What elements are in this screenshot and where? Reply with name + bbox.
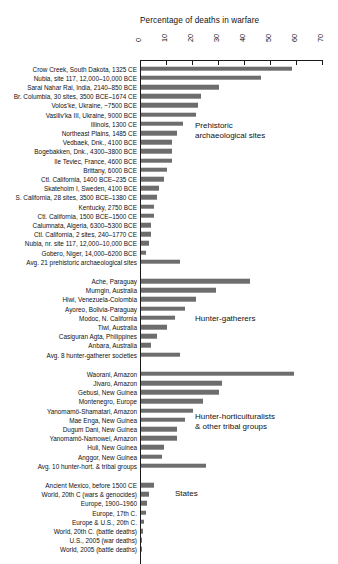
- bar-row-label: Vedbaek, Dnk., 4100 BCE: [63, 139, 137, 146]
- bar-row: Crow Creek, South Dakota, 1325 CE: [140, 64, 322, 73]
- bar-row: Sarai Nahar Rai, India, 2140–850 BCE: [140, 82, 322, 91]
- bar-row-label: Avg. 21 prehistoric archaeological sites: [26, 258, 137, 265]
- bar: [141, 121, 183, 126]
- bar: [141, 66, 292, 71]
- bar-row-label: Tiwi, Australia: [98, 323, 137, 330]
- bar-row-label: S. California, 28 sites, 3500 BCE–1380 C…: [16, 194, 138, 201]
- group-annotation: Hunter-gatherers: [195, 314, 255, 325]
- bar-row-label: Montenegro, Europe: [79, 398, 137, 405]
- bar: [141, 399, 203, 404]
- bar-row: Vasiliv'ka III, Ukraine, 9000 BCE: [140, 110, 322, 119]
- chart-title: Percentage of deaths in warfare: [140, 16, 338, 25]
- bar-row-label: Br. Columbia, 30 sites, 3500 BCE–1674 CE: [14, 93, 137, 100]
- bar: [141, 529, 143, 534]
- bar-row-label: Hiwi, Venezuela-Colombia: [62, 296, 137, 303]
- x-tick-label: 70: [316, 34, 325, 42]
- bar-row-label: World, 2005 (battle deaths): [60, 546, 137, 553]
- bar: [141, 259, 180, 264]
- bar: [141, 288, 216, 293]
- bar-row-label: Ile Teviec, France, 4600 BCE: [54, 157, 137, 164]
- bar-row: Avg. 21 prehistoric archaeological sites: [140, 257, 322, 266]
- x-tick-label: 0: [134, 38, 143, 42]
- bar-row-label: Yanomamö-Namowei, Amazon: [49, 435, 137, 442]
- bar: [141, 519, 144, 524]
- bar: [141, 390, 219, 395]
- bar: [141, 352, 180, 357]
- bar: [141, 325, 167, 330]
- x-tick: [322, 60, 323, 65]
- bar: [141, 417, 185, 422]
- bar-row: Avg. 10 hunter-hort. & tribal groups: [140, 461, 322, 470]
- bar-row: Europe, 1900–1960: [140, 499, 322, 508]
- x-tick-label: 30: [212, 34, 221, 42]
- bar-row-label: Casiguran Agta, Philippines: [59, 333, 137, 340]
- bar: [141, 279, 250, 284]
- group-annotation: States: [175, 489, 198, 500]
- bar-row-label: Anbara, Australia: [88, 342, 137, 349]
- bar: [141, 427, 177, 432]
- bar-row-label: Jivaro, Amazon: [93, 379, 137, 386]
- bar-row: World, 20th C (wars & genocides): [140, 490, 322, 499]
- bar-row-label: Bogebakken, Dnk., 4300–3800 BCE: [34, 148, 137, 155]
- bar-row-label: Northeast Plains, 1485 CE: [62, 129, 137, 136]
- bar: [141, 250, 146, 255]
- bar-row-label: Ctl. California, 2 sites, 240–1770 CE: [34, 231, 137, 238]
- bar: [141, 538, 142, 543]
- bar-row-label: Ayoreo, Bolivia-Paraguay: [65, 305, 137, 312]
- bar-row-label: Waorani, Amazon: [87, 370, 137, 377]
- bar-row: Europe & U.S., 20th C.: [140, 517, 322, 526]
- bar-row-label: World, 20th C. (battle deaths): [54, 527, 137, 534]
- bar-row: Europe, 17th C.: [140, 508, 322, 517]
- bar-row-label: Avg. 10 hunter-hort. & tribal groups: [38, 462, 137, 469]
- bar-row-label: Europe, 17th C.: [92, 509, 137, 516]
- bar: [141, 334, 157, 339]
- bar-row: World, 2005 (battle deaths): [140, 545, 322, 554]
- bar: [141, 445, 164, 450]
- x-tick-label: 20: [186, 34, 195, 42]
- bar-row: Ctl. California, 1400 BCE–235 CE: [140, 174, 322, 183]
- bar: [141, 223, 151, 228]
- bar: [141, 381, 222, 386]
- bar-row: Avg. 8 hunter-gatherer societies: [140, 350, 322, 359]
- bar-row-label: Crow Creek, South Dakota, 1325 CE: [33, 65, 137, 72]
- bar: [141, 103, 198, 108]
- bar-row: Casiguran Agta, Philippines: [140, 332, 322, 341]
- bar: [141, 501, 147, 506]
- bar: [141, 112, 196, 117]
- group-annotation: Prehistoric archaeological sites: [195, 121, 265, 142]
- bar: [141, 232, 151, 237]
- bar-row: Volos'ke, Ukraine, ~7500 BCE: [140, 101, 322, 110]
- bar-row-label: Modoc, N. California: [79, 314, 137, 321]
- bar-row: Montenegro, Europe: [140, 397, 322, 406]
- bar: [141, 436, 177, 441]
- bar: [141, 140, 172, 145]
- bar-row: Ile Teviec, France, 4600 BCE: [140, 156, 322, 165]
- bar: [141, 241, 149, 246]
- bar-row-label: Ancient Mexico, before 1500 CE: [45, 481, 137, 488]
- bar-row: Ache, Paraguay: [140, 276, 322, 285]
- bar-row-label: Europe, 1900–1960: [81, 500, 137, 507]
- bar: [141, 94, 201, 99]
- bar-row-label: Ctl. California, 1400 BCE–235 CE: [41, 175, 137, 182]
- bar: [141, 85, 219, 90]
- x-tick-label: 40: [238, 34, 247, 42]
- x-tick-label: 60: [290, 34, 299, 42]
- bar-row-label: Nubia, site 117, 12,000–10,000 BCE: [34, 74, 137, 81]
- bar-row: Hiwi, Venezuela-Colombia: [140, 295, 322, 304]
- bar-row: Calumnata, Algeria, 6300–5300 BCE: [140, 220, 322, 229]
- bar-row-label: Brittany, 6000 BCE: [83, 166, 137, 173]
- bar-row: Br. Columbia, 30 sites, 3500 BCE–1674 CE: [140, 92, 322, 101]
- bar-row: Nubia, nr. site 117, 12,000–10,000 BCE: [140, 239, 322, 248]
- bar-row-label: Dugum Dani, New Guinea: [63, 425, 137, 432]
- bar-row-label: Volos'ke, Ukraine, ~7500 BCE: [51, 102, 137, 109]
- bar-row-label: Mae Enga, New Guinea: [69, 416, 137, 423]
- bar-row-label: Europe & U.S., 20th C.: [72, 518, 137, 525]
- bar: [141, 131, 177, 136]
- bar-row: Skateholm I, Sweden, 4100 BCE: [140, 184, 322, 193]
- bar: [141, 204, 154, 209]
- bar: [141, 306, 185, 311]
- bar: [141, 186, 159, 191]
- x-tick-label: 50: [264, 34, 273, 42]
- bar-row-label: Skateholm I, Sweden, 4100 BCE: [44, 185, 137, 192]
